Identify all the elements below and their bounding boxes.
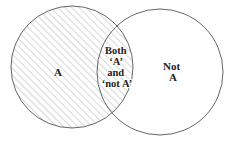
set-a-label: A xyxy=(54,66,62,78)
set-not-a-label: Not A xyxy=(163,60,183,83)
venn-diagram: A Not A Both ‘A’ and ‘not A’ xyxy=(0,0,232,143)
